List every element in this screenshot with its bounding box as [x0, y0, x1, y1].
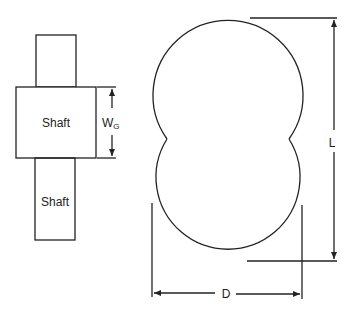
wg-symbol: W — [102, 116, 114, 130]
wg-subscript: G — [113, 122, 119, 131]
bottom-shaft-label: Shaft — [41, 195, 70, 209]
lobed-profile-figure — [152, 18, 337, 299]
l-label: L — [329, 136, 336, 150]
d-label: D — [222, 287, 231, 301]
wg-label: WG — [102, 116, 120, 131]
gear-label: Shaft — [42, 116, 71, 130]
diagram-canvas: Shaft Shaft WG L D — [0, 0, 355, 312]
top-shaft — [36, 35, 76, 87]
lobed-outline — [153, 20, 303, 249]
shaft-gear-figure — [16, 35, 116, 240]
